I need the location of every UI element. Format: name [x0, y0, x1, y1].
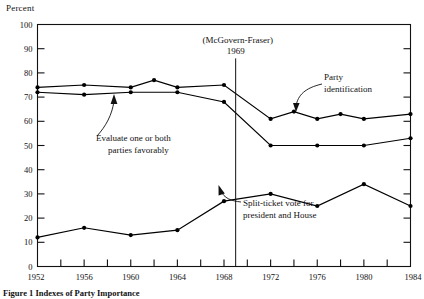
y-tick-label: 80: [24, 68, 33, 78]
data-point: [222, 83, 226, 87]
y-axis-tick-labels: 0102030405060708090100: [20, 20, 33, 272]
data-point: [362, 117, 366, 121]
data-point: [338, 112, 342, 116]
x-tick-label: 1964: [169, 272, 187, 282]
data-point: [35, 85, 39, 89]
evaluate-parties-line1: Evaluate one or both: [96, 133, 171, 143]
y-tick-label: 50: [24, 141, 33, 151]
data-point: [315, 143, 319, 147]
x-tick-label: 1960: [122, 272, 139, 282]
y-tick-label: 90: [24, 44, 33, 54]
data-point: [129, 233, 133, 237]
x-tick-label: 1980: [355, 272, 372, 282]
data-point: [269, 143, 273, 147]
y-tick-label: 0: [28, 262, 32, 272]
y-tick-label: 70: [24, 92, 33, 102]
mcgovern-fraser-line1: (McGovern-Fraser): [202, 35, 272, 45]
data-point: [315, 117, 319, 121]
series-line: [38, 184, 411, 237]
party-identification-leader: [296, 84, 322, 106]
x-tick-label: 1984: [405, 272, 423, 282]
x-axis-ticks: [61, 260, 387, 267]
data-point: [315, 204, 319, 208]
evaluate-parties-line2: parties favorably: [108, 145, 169, 155]
x-tick-label: 1952: [28, 272, 45, 282]
evaluate-parties-leader: [97, 101, 114, 136]
split-ticket-line2: president and House: [243, 210, 316, 220]
split-ticket-arrow: [219, 185, 225, 195]
data-point: [222, 199, 226, 203]
annotation-layer: (McGovern-Fraser)1969Partyidentification…: [96, 35, 372, 267]
data-point: [35, 90, 39, 94]
x-tick-label: 1956: [76, 272, 93, 282]
mcgovern-fraser-line2: 1969: [227, 46, 246, 56]
data-point: [408, 136, 412, 140]
data-point: [269, 192, 273, 196]
split-ticket-line1: Split-ticket vote for: [243, 198, 313, 208]
y-tick-label: 40: [24, 165, 33, 175]
y-tick-label: 10: [24, 237, 33, 247]
evaluate-parties-arrow: [111, 94, 118, 104]
data-point: [269, 117, 273, 121]
party-identification-line1: Party: [324, 72, 343, 82]
data-point: [152, 78, 156, 82]
figure-caption: Figure 1 Indexes of Party Importance: [3, 288, 421, 299]
data-point: [82, 93, 86, 97]
y-tick-label: 60: [24, 116, 33, 126]
data-point: [408, 204, 412, 208]
party-identification-line2: identification: [324, 84, 372, 94]
data-point: [175, 85, 179, 89]
line-chart: 0102030405060708090100 19521956196019641…: [0, 0, 424, 299]
data-point: [35, 235, 39, 239]
data-point: [175, 228, 179, 232]
x-axis-tick-labels: 195219561960196419681972197619801984: [28, 272, 423, 282]
y-tick-label: 20: [24, 213, 33, 223]
data-point: [222, 100, 226, 104]
x-tick-label: 1976: [309, 272, 326, 282]
x-tick-label: 1968: [216, 272, 233, 282]
data-point: [129, 85, 133, 89]
y-tick-label: 100: [20, 20, 33, 30]
data-point: [82, 226, 86, 230]
data-point: [175, 90, 179, 94]
data-point: [129, 90, 133, 94]
data-point: [82, 83, 86, 87]
y-tick-label: 30: [24, 189, 33, 199]
data-point: [408, 112, 412, 116]
figure-container: Percent 0102030405060708090100 195219561…: [0, 0, 424, 299]
data-point: [362, 182, 366, 186]
x-tick-label: 1972: [262, 272, 279, 282]
data-point: [362, 143, 366, 147]
data-series-layer: [35, 78, 412, 240]
